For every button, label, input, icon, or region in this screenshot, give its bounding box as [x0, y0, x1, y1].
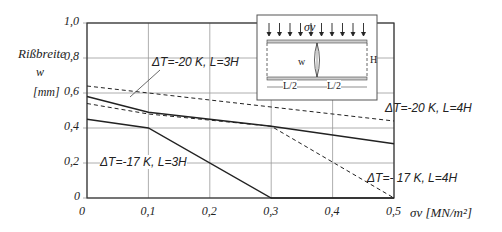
series-line	[87, 104, 394, 199]
x-tick-label: 0,4	[325, 204, 340, 219]
inset-l2-right: L/2	[327, 80, 341, 91]
x-tick-label: 0,5	[386, 204, 401, 219]
y-tick-label: 0,4	[64, 119, 79, 134]
x-tick-label: 0,3	[263, 204, 278, 219]
inset-l2-left: L/2	[283, 80, 297, 91]
inset-sigma-label: σv	[304, 20, 315, 35]
y-tick-label: 0,8	[64, 49, 79, 64]
annotation-17k-3h: ΔT=-17 K, L=3H	[100, 155, 187, 169]
x-axis-label: σv [MN/m²]	[410, 205, 472, 221]
y-axis-label-3: [mm]	[33, 85, 60, 100]
y-tick-label: 0,2	[64, 154, 79, 169]
y-tick-label: 1,0	[64, 14, 79, 29]
y-axis-label-1: Rißbreite	[18, 46, 66, 62]
inset-h-label: H	[370, 54, 377, 65]
inset-diagram	[257, 15, 377, 100]
annotation-17k-4h: ΔT=- 17 K, L=4H	[367, 171, 457, 185]
annotation-20k-3h: ΔT=-20 K, L=3H	[152, 55, 239, 69]
x-tick-label: 0,1	[140, 204, 155, 219]
y-tick-label: 0,6	[64, 84, 79, 99]
y-tick-label: 0	[74, 189, 80, 204]
inset-w-label: w	[298, 56, 305, 67]
x-tick-label: 0	[79, 204, 85, 219]
annotation-20k-4h: ΔT=-20 K, L=4H	[385, 101, 472, 115]
x-tick-label: 0,2	[202, 204, 217, 219]
y-axis-label-2: w	[36, 65, 44, 80]
